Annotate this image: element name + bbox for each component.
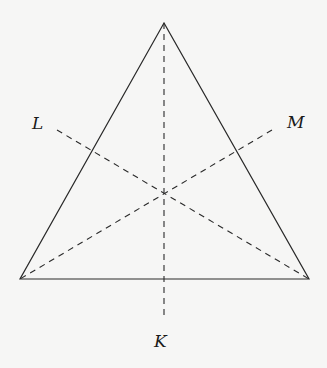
label-k: K	[153, 331, 168, 351]
label-l: L	[31, 113, 43, 133]
axis-l-dashed	[57, 130, 309, 279]
label-m: M	[286, 112, 305, 132]
triangle-diagram: L M K	[0, 0, 327, 368]
axis-m-dashed	[20, 130, 272, 279]
